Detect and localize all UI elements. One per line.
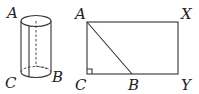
right-angle-marker (87, 69, 92, 74)
geometry-diagram: A C B A X C B Y (0, 0, 199, 94)
label-rect-Y: Y (181, 76, 193, 94)
rectangle-figure: A X C B Y (73, 5, 193, 94)
cylinder-bottom-front-arc (21, 72, 51, 78)
label-rect-X: X (180, 5, 193, 23)
label-rect-B: B (127, 76, 139, 94)
cylinder-radius-B (36, 66, 49, 69)
rectangle-ACYX (87, 22, 178, 74)
label-cyl-B: B (51, 68, 63, 86)
label-rect-A: A (73, 5, 86, 23)
cylinder: A C B (5, 4, 63, 92)
label-rect-C: C (75, 76, 87, 94)
label-cyl-C: C (5, 74, 17, 92)
cylinder-bottom-back-arc (21, 67, 51, 72)
label-cyl-A: A (5, 4, 18, 22)
diagonal-AB (87, 22, 132, 74)
